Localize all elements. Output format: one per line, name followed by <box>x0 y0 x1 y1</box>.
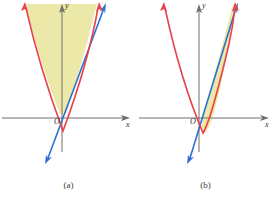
parabola-curve-b <box>165 8 235 133</box>
origin-label-b: O <box>190 117 196 126</box>
panel-a-plot <box>0 0 137 180</box>
figure-pair: O x y (a) <box>0 0 274 202</box>
y-axis-label-b: y <box>202 1 206 10</box>
parabola-arrowhead-left-b <box>160 2 167 12</box>
panel-b: O x y (b) <box>137 0 274 202</box>
panel-b-plot <box>137 0 274 180</box>
caption-a: (a) <box>0 180 137 190</box>
line-curve-b <box>190 8 236 158</box>
x-axis-label-a: x <box>126 120 130 129</box>
caption-b: (b) <box>137 180 274 190</box>
x-axis-label-b: x <box>265 120 269 129</box>
origin-label-a: O <box>54 117 60 126</box>
y-axis-label-a: y <box>65 1 69 10</box>
panel-a: O x y (a) <box>0 0 137 202</box>
